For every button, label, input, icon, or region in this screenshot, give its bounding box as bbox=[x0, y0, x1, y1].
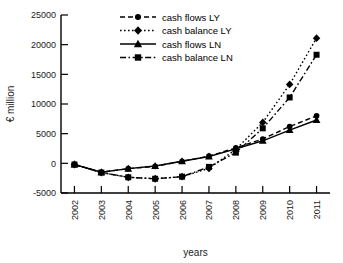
legend-label: cash flows LY bbox=[162, 12, 221, 23]
x-tick-label: 2005 bbox=[151, 200, 161, 220]
y-tick-label: 15000 bbox=[31, 70, 56, 80]
y-tick-label: 0 bbox=[51, 159, 56, 169]
x-tick-label: 2011 bbox=[312, 200, 322, 219]
y-tick-label: 20000 bbox=[31, 40, 56, 50]
marker-square bbox=[98, 170, 104, 176]
marker-diamond bbox=[313, 34, 321, 42]
x-tick-label: 2009 bbox=[258, 200, 268, 220]
legend-label: cash balance LY bbox=[162, 25, 232, 36]
x-tick-label: 2006 bbox=[178, 200, 188, 220]
marker-diamond bbox=[134, 26, 142, 34]
x-tick-label: 2003 bbox=[97, 200, 107, 220]
y-tick-label: 10000 bbox=[31, 99, 56, 109]
legend-label: cash balance LN bbox=[162, 52, 233, 63]
marker-square bbox=[135, 54, 141, 60]
x-tick-label: 2007 bbox=[204, 200, 214, 220]
y-tick-label: -5000 bbox=[33, 188, 56, 198]
legend-label: cash flows LN bbox=[162, 39, 221, 50]
marker-square bbox=[287, 94, 293, 100]
marker-square bbox=[233, 150, 239, 156]
marker-square bbox=[71, 162, 77, 168]
chart-plot-area: 2500020000150001000050000-50002002200320… bbox=[0, 0, 343, 263]
x-axis-title: years bbox=[183, 247, 207, 258]
y-tick-label: 5000 bbox=[36, 129, 56, 139]
marker-square bbox=[152, 176, 158, 182]
cash-flow-chart: 2500020000150001000050000-50002002200320… bbox=[0, 0, 343, 263]
marker-square bbox=[179, 174, 185, 180]
marker-square bbox=[206, 164, 212, 170]
marker-square bbox=[314, 52, 320, 58]
marker-square bbox=[260, 125, 266, 131]
x-tick-label: 2004 bbox=[124, 200, 134, 220]
x-tick-label: 2008 bbox=[231, 200, 241, 220]
x-tick-label: 2002 bbox=[70, 200, 80, 220]
series-line-circle bbox=[74, 116, 316, 172]
y-axis-title: € million bbox=[5, 86, 16, 123]
x-tick-label: 2010 bbox=[285, 200, 295, 220]
marker-square bbox=[125, 174, 131, 180]
series-line-triangle bbox=[74, 120, 316, 172]
marker-circle bbox=[135, 14, 141, 20]
series-line-square bbox=[74, 55, 316, 179]
marker-diamond bbox=[286, 81, 294, 89]
y-tick-label: 25000 bbox=[31, 10, 56, 20]
